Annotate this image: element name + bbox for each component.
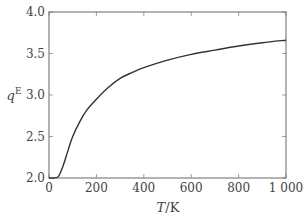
x-tick-label: 200 [85,181,108,195]
x-tick-label: 1 000 [269,181,303,195]
plot-frame [49,12,286,178]
y-tick-label: 2.0 [26,171,45,185]
data-line [49,40,286,178]
x-axis-ticks: 02004006008001 000 [45,12,303,195]
x-tick-label: 400 [132,181,155,195]
y-axis-label: qE [7,86,22,103]
y-tick-label: 4.0 [26,5,45,19]
y-tick-label: 3.0 [26,88,45,102]
y-axis-ticks: 2.02.53.03.54.0 [26,5,286,185]
x-tick-label: 800 [227,181,250,195]
y-tick-label: 2.5 [26,130,45,144]
x-tick-label: 600 [180,181,203,195]
chart: 2.02.53.03.54.0 02004006008001 000 qE T/… [0,0,304,218]
x-axis-label: T/K [157,200,180,215]
y-tick-label: 3.5 [26,47,45,61]
x-tick-label: 0 [45,181,53,195]
